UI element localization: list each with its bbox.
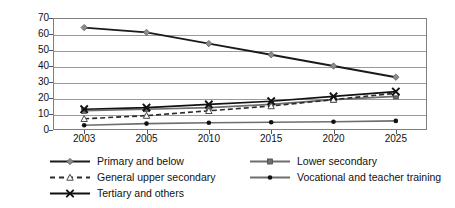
x-tick-mark (334, 130, 335, 134)
y-tick-mark (49, 130, 53, 131)
x-tick-label: 2020 (322, 133, 344, 145)
legend-item[interactable]: Tertiary and others (48, 186, 184, 201)
y-tick-mark (49, 114, 53, 115)
data-point (394, 119, 399, 124)
y-tick-mark (49, 34, 53, 35)
legend-label: Primary and below (97, 155, 184, 168)
series-4 (82, 119, 398, 128)
data-point (268, 52, 274, 58)
x-tick-label: 2015 (260, 133, 282, 145)
legend-dot-icon (248, 171, 292, 184)
legend-label: Vocational and teacher training (297, 171, 441, 184)
x-tick-label: 2025 (385, 133, 407, 145)
y-tick-mark (49, 82, 53, 83)
legend-item[interactable]: General upper secondary (48, 170, 216, 185)
x-tick-label: 2010 (198, 133, 220, 145)
data-point (206, 40, 212, 46)
data-point (207, 120, 212, 125)
chart-legend: Primary and belowLower secondaryGeneral … (48, 154, 448, 204)
x-tick-mark (147, 130, 148, 134)
legend-label: Lower secondary (297, 155, 377, 168)
series-line (84, 121, 396, 125)
x-tick-mark (396, 130, 397, 134)
legend-cross-icon (48, 187, 92, 200)
line-chart: 010203040506070 200320052010201520202025… (0, 0, 455, 208)
y-tick-mark (49, 18, 53, 19)
legend-diamond-icon (48, 155, 92, 168)
legend-item[interactable]: Vocational and teacher training (248, 170, 441, 185)
x-tick-mark (209, 130, 210, 134)
y-tick-mark (49, 50, 53, 51)
data-point (81, 24, 87, 30)
data-point (144, 121, 149, 126)
data-point (393, 74, 399, 80)
data-point (82, 123, 87, 128)
legend-triangle-icon (48, 171, 92, 184)
data-point (331, 119, 336, 124)
legend-item[interactable]: Lower secondary (248, 154, 377, 169)
series-1 (81, 24, 399, 80)
y-tick-mark (49, 98, 53, 99)
legend-item[interactable]: Primary and below (48, 154, 184, 169)
data-point (269, 120, 274, 125)
data-point (330, 63, 336, 69)
y-tick-mark (49, 66, 53, 67)
x-tick-label: 2005 (135, 133, 157, 145)
x-axis: 200320052010201520202025 (53, 133, 427, 149)
legend-label: Tertiary and others (97, 187, 184, 200)
x-tick-label: 2003 (73, 133, 95, 145)
x-tick-mark (84, 130, 85, 134)
series-line (84, 28, 396, 78)
legend-square-icon (248, 155, 292, 168)
x-tick-mark (271, 130, 272, 134)
legend-label: General upper secondary (97, 171, 216, 184)
data-point (143, 29, 149, 35)
